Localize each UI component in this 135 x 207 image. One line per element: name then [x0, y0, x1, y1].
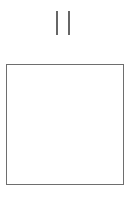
pause-icon-bar-right	[68, 11, 70, 35]
canvas-area[interactable]	[6, 64, 124, 185]
pause-button[interactable]: Pause	[52, 8, 74, 38]
pause-button-label: Pause	[52, 8, 53, 9]
app-root: Pause	[0, 0, 135, 207]
pause-icon-bar-left	[56, 11, 58, 35]
